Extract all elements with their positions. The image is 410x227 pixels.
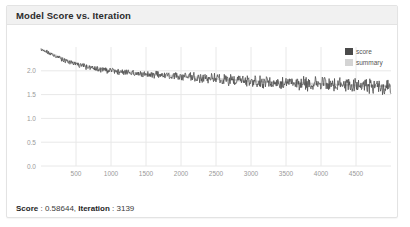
svg-text:1500: 1500 — [139, 170, 154, 177]
legend-swatch-score-icon — [345, 48, 353, 55]
svg-text:500: 500 — [71, 170, 82, 177]
svg-text:0.0: 0.0 — [27, 163, 36, 170]
screenshot-root: Model Score vs. Iteration 0.00.51.01.52.… — [0, 0, 410, 227]
chart-legend: score summary — [345, 47, 403, 69]
page-title: Model Score vs. Iteration — [16, 10, 131, 21]
svg-text:1000: 1000 — [104, 170, 119, 177]
svg-text:4500: 4500 — [349, 170, 364, 177]
chart-plot-area[interactable]: 0.00.51.01.52.05001000150020002500300035… — [7, 25, 397, 197]
svg-text:3000: 3000 — [244, 170, 259, 177]
card-header: Model Score vs. Iteration — [7, 6, 397, 25]
svg-text:2000: 2000 — [174, 170, 189, 177]
svg-text:2500: 2500 — [209, 170, 224, 177]
chart-svg[interactable]: 0.00.51.01.52.05001000150020002500300035… — [7, 25, 397, 197]
iteration-separator: : — [110, 204, 117, 213]
svg-text:0.5: 0.5 — [27, 139, 36, 146]
score-label: Score — [16, 204, 38, 213]
score-value: 0.58644 — [45, 204, 74, 213]
iteration-label: Iteration — [78, 204, 110, 213]
legend-label-summary: summary — [356, 58, 383, 67]
score-separator: : — [38, 204, 45, 213]
legend-item-summary[interactable]: summary — [345, 58, 403, 67]
svg-text:3500: 3500 — [279, 170, 294, 177]
iteration-value: 3139 — [117, 204, 135, 213]
legend-swatch-summary-icon — [345, 59, 353, 66]
svg-text:1.5: 1.5 — [27, 91, 36, 98]
svg-text:2.0: 2.0 — [27, 67, 36, 74]
legend-item-score[interactable]: score — [345, 47, 403, 56]
legend-label-score: score — [356, 47, 372, 56]
chart-status-readout: Score : 0.58644, Iteration : 3139 — [16, 204, 134, 213]
svg-text:4000: 4000 — [314, 170, 329, 177]
svg-text:1.0: 1.0 — [27, 115, 36, 122]
chart-card: Model Score vs. Iteration 0.00.51.01.52.… — [6, 5, 398, 218]
